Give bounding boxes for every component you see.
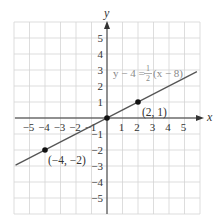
x-tick-label: −5 bbox=[23, 121, 35, 133]
y-tick-label: −4 bbox=[91, 176, 103, 188]
y-tick-label: −3 bbox=[91, 160, 103, 172]
y-tick-label: 3 bbox=[98, 64, 104, 76]
y-tick-label: 5 bbox=[98, 32, 104, 44]
data-point bbox=[42, 147, 48, 153]
coordinate-plane: x y −5−4−3−2−11234554321−1−2−3−4−5 y − 4… bbox=[0, 0, 217, 223]
x-tick-label: 1 bbox=[119, 121, 125, 133]
equation-fraction-numerator: 1 bbox=[146, 64, 150, 73]
y-axis-label: y bbox=[103, 6, 110, 20]
x-tick-label: 4 bbox=[165, 121, 171, 133]
y-tick-label: 1 bbox=[98, 96, 104, 108]
x-tick-label: −4 bbox=[38, 121, 50, 133]
y-tick-label: 2 bbox=[98, 80, 104, 92]
data-points: (−4, −2)(2, 1) bbox=[42, 99, 167, 167]
x-tick-label: −2 bbox=[69, 121, 81, 133]
x-tick-label: 5 bbox=[181, 121, 187, 133]
equation-lhs: y − 4 = bbox=[113, 67, 145, 79]
x-axis-label: x bbox=[206, 110, 213, 124]
y-tick-label: −5 bbox=[91, 192, 103, 204]
x-tick-label: 3 bbox=[150, 121, 156, 133]
equation-rhs: (x − 8) bbox=[153, 67, 183, 80]
data-point bbox=[135, 99, 141, 105]
point-label: (2, 1) bbox=[142, 106, 167, 119]
y-tick-label: −1 bbox=[91, 128, 103, 140]
data-point bbox=[104, 115, 110, 121]
x-tick-label: 2 bbox=[134, 121, 140, 133]
point-label: (−4, −2) bbox=[48, 154, 86, 167]
equation-fraction-denominator: 2 bbox=[146, 74, 150, 83]
x-tick-label: −3 bbox=[54, 121, 66, 133]
equation-label: y − 4 = 1 2 (x − 8) bbox=[113, 64, 183, 83]
y-tick-label: 4 bbox=[98, 48, 104, 60]
y-tick-label: −2 bbox=[91, 144, 103, 156]
